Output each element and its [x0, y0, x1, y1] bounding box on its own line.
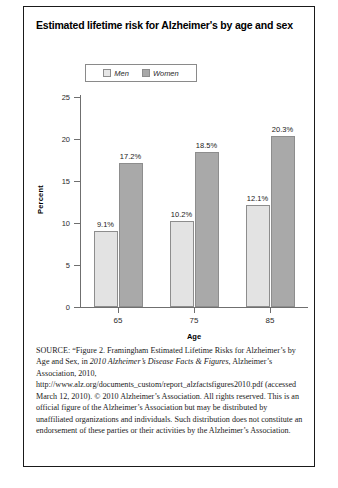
legend-entry-men: Men [103, 69, 129, 78]
source-note: SOURCE: “Figure 2. Framingham Estimated … [36, 345, 304, 437]
x-tick-label: 75 [174, 316, 214, 325]
bar-men-65 [94, 231, 118, 307]
bar-women-65 [119, 163, 143, 307]
y-tick [74, 181, 81, 182]
y-tick-label: 5 [46, 261, 70, 270]
y-tick-label: 0 [46, 303, 70, 312]
y-tick-label: 25 [46, 93, 70, 102]
y-tick [74, 139, 81, 140]
bar-value-label: 17.2% [111, 152, 151, 161]
figure-container: Estimated lifetime risk for Alzheimer's … [23, 6, 315, 467]
bar-women-75 [195, 152, 219, 307]
legend-label-women: Women [153, 69, 179, 78]
bar-women-85 [271, 136, 295, 307]
x-tick-label: 85 [250, 316, 290, 325]
source-text-italic: 2010 Alzheimer’s Disease Facts & Figures [90, 357, 229, 366]
x-axis-title: Age [80, 332, 308, 341]
bar-men-75 [170, 221, 194, 307]
bar-value-label: 20.3% [263, 125, 303, 134]
y-tick [74, 307, 81, 308]
chart-legend: Men Women [85, 64, 197, 82]
legend-swatch-women-icon [142, 69, 150, 77]
y-tick [74, 223, 81, 224]
bar-value-label: 18.5% [187, 141, 227, 150]
figure-title: Estimated lifetime risk for Alzheimer's … [36, 19, 308, 32]
y-tick-label: 10 [46, 219, 70, 228]
x-tick [270, 308, 271, 313]
source-label: SOURCE: [36, 346, 70, 355]
y-axis-line [80, 95, 81, 308]
y-axis-title: Percent [36, 170, 45, 230]
x-tick [194, 308, 195, 313]
y-tick [74, 97, 81, 98]
x-tick-label: 65 [98, 316, 138, 325]
legend-label-men: Men [114, 69, 129, 78]
source-text-part2: , Alzheimer’s Association, 2010, http://… [36, 357, 302, 435]
bar-men-85 [246, 205, 270, 307]
x-tick [118, 308, 119, 313]
y-tick [74, 265, 81, 266]
legend-entry-women: Women [142, 69, 179, 78]
y-tick-label: 15 [46, 177, 70, 186]
y-tick-label: 20 [46, 135, 70, 144]
chart-plot-area: Percent 0510152025 9.1%17.2%10.2%18.5%12… [24, 89, 313, 339]
legend-swatch-men-icon [103, 69, 111, 77]
